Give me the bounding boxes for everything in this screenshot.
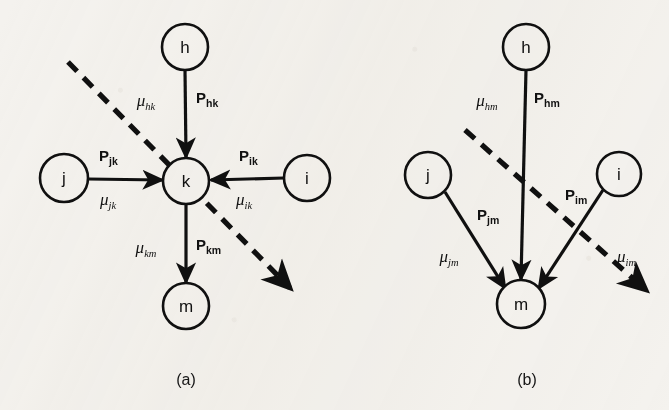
panel-a: h j k i m μhk Phk [40,24,330,388]
node-label: i [617,165,621,184]
edge-label-p-ik: Pik [239,147,258,167]
edge-j-to-k [88,179,162,180]
edge-label-p-im: Pim [565,186,587,206]
panel-caption-a: (a) [176,371,196,388]
edge-label-p-jk: Pjk [99,147,118,167]
edge-h-to-m [521,70,526,279]
edge-label-p-hm: Phm [534,89,560,109]
figure-canvas: h j k i m μhk Phk [0,0,669,410]
node-j-a[interactable]: j [40,154,88,202]
edge-label-mu-hm: μhm [475,91,498,112]
node-label: h [180,38,189,57]
edge-label-p-km: Pkm [196,236,221,256]
node-m-a[interactable]: m [163,283,209,329]
node-i-a[interactable]: i [284,155,330,201]
edge-label-p-hk: Phk [196,89,218,109]
edge-label-mu-im: μim [616,247,636,268]
node-label: h [521,38,530,57]
node-label: j [61,169,66,188]
edge-label-mu-jk: μjk [99,190,116,211]
edge-label-mu-ik: μik [235,190,252,211]
node-label: k [182,172,191,191]
node-j-b[interactable]: j [405,152,451,198]
node-label: j [425,166,430,185]
node-label: i [305,169,309,188]
node-k-a[interactable]: k [163,158,209,204]
node-h-b[interactable]: h [503,24,549,70]
edge-label-mu-hk: μhk [136,91,156,112]
node-label: m [179,297,193,316]
edge-j-to-m [445,192,505,288]
edge-h-to-k [185,70,186,157]
node-m-b[interactable]: m [497,280,545,328]
edge-label-mu-jm: μjm [438,247,458,268]
panel-b: h j i m μhm Phm Pjm [405,24,646,388]
node-label: m [514,295,528,314]
edge-i-to-k [211,178,284,180]
edge-label-p-jm: Pjm [477,206,499,226]
node-h-a[interactable]: h [162,24,208,70]
panel-caption-b: (b) [517,371,537,388]
node-i-b[interactable]: i [597,152,641,196]
edge-label-mu-km: μkm [135,238,157,259]
